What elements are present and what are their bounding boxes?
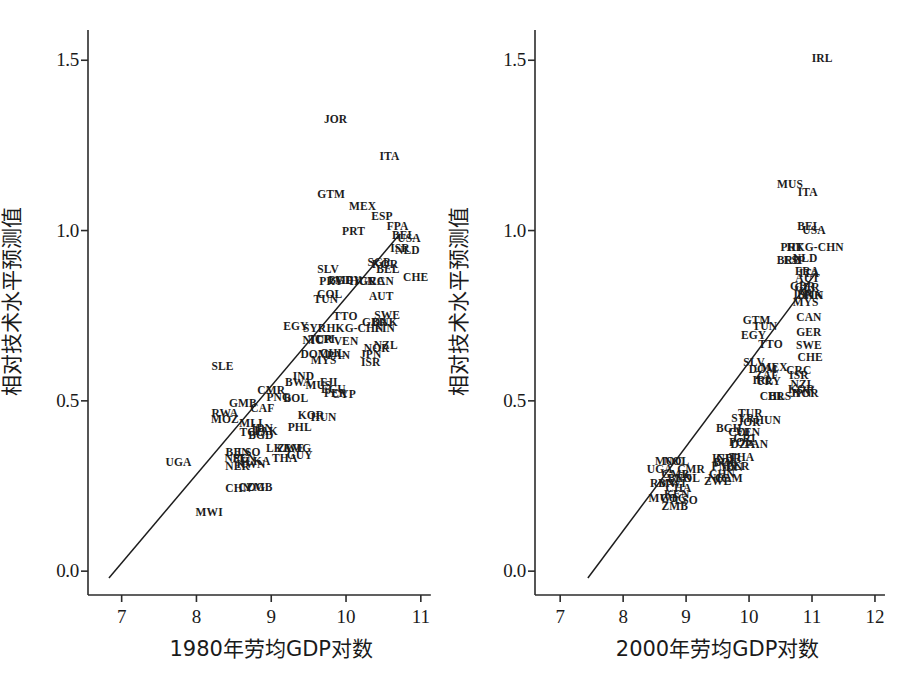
- point-label: FIN: [375, 324, 395, 336]
- point-label: ZMB: [246, 483, 273, 495]
- point-label: ZWE: [704, 476, 731, 488]
- point-label: CAN: [369, 277, 394, 289]
- point-label: BRS: [769, 391, 792, 403]
- point-label: MYS: [793, 297, 819, 309]
- point-label: NOR: [793, 388, 819, 400]
- point-label: ITA: [798, 187, 818, 199]
- point-label: CYP: [332, 389, 356, 401]
- panel-right: 相对技术水平预测值 1.5 1.0 0.5 0.0 7 8 9 10 11 12…: [450, 0, 900, 677]
- scatter-figure: 相对技术水平预测值 1.5 1.0 0.5 0.0 7 8 9 10 11 19…: [0, 0, 901, 677]
- point-label: MWI: [196, 508, 223, 520]
- point-label: PRT: [342, 227, 365, 239]
- point-label: GER: [796, 327, 821, 339]
- point-label: CAF: [250, 403, 274, 415]
- point-label: BGD: [248, 430, 273, 442]
- point-label: NER: [225, 462, 250, 474]
- point-label: CPI: [315, 334, 335, 346]
- point-label: NLD: [793, 253, 818, 265]
- point-label: BEL: [376, 264, 399, 276]
- point-label: HUN: [755, 415, 781, 427]
- point-label: ITA: [379, 152, 399, 164]
- point-label: JOR: [324, 114, 347, 126]
- point-label: CHE: [403, 272, 428, 284]
- point-label: TUN: [314, 295, 339, 307]
- point-label: SWE: [796, 340, 822, 352]
- point-label: CHE: [797, 353, 822, 365]
- point-label: SLE: [212, 361, 234, 373]
- point-label: NLD: [395, 245, 420, 257]
- point-label: GTM: [317, 189, 345, 201]
- right-plot-canvas: [450, 0, 901, 677]
- point-label: CAN: [796, 313, 821, 325]
- point-label: ISR: [361, 357, 380, 369]
- panel-left: 相对技术水平预测值 1.5 1.0 0.5 0.0 7 8 9 10 11 19…: [0, 0, 450, 677]
- point-label: BOL: [284, 393, 309, 405]
- point-label: ZMB: [662, 501, 689, 513]
- point-label: PHL: [288, 422, 312, 434]
- point-label: AUT: [369, 291, 394, 303]
- point-label: TTO: [758, 339, 782, 351]
- point-label: IRL: [812, 53, 833, 65]
- point-label: MOZ: [211, 415, 239, 427]
- point-label: THA: [272, 453, 297, 465]
- point-label: PAN: [745, 439, 768, 451]
- point-label: URY: [756, 376, 781, 388]
- left-plot-canvas: [0, 0, 451, 677]
- point-label: HUN: [311, 412, 337, 424]
- point-label: MYS: [311, 355, 337, 367]
- point-label: USA: [802, 225, 825, 237]
- point-label: UGA: [166, 457, 192, 469]
